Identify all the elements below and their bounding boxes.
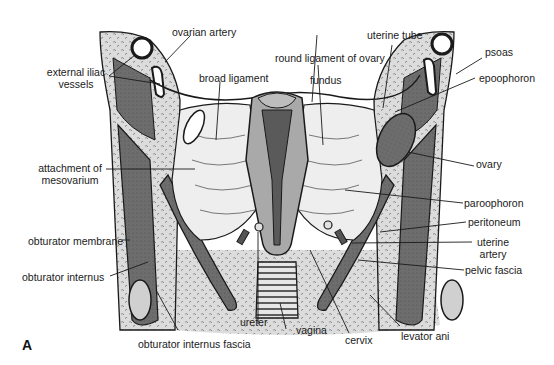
label-ovarian-artery: ovarian artery — [172, 26, 236, 38]
label-attachment-line2: mesovarium — [36, 174, 104, 186]
label-ureter: ureter — [240, 316, 267, 328]
label-paroophoron: paroophoron — [464, 197, 524, 209]
label-external-iliac-line2: vessels — [44, 78, 108, 90]
label-vagina: vagina — [296, 324, 327, 336]
label-obturator-membrane: obturator membrane — [28, 235, 123, 247]
label-levator-ani: levator ani — [401, 330, 449, 342]
label-fundus: fundus — [310, 74, 342, 86]
label-external-iliac-vessels: external iliac vessels — [44, 66, 108, 90]
uterus — [246, 92, 308, 255]
label-round-ligament-of-ovary: round ligament of ovary — [275, 52, 385, 64]
label-uterine-artery-line1: uterine — [470, 236, 516, 248]
ureter-left — [255, 223, 263, 231]
label-pelvic-fascia: pelvic fascia — [465, 264, 522, 276]
label-attachment-line1: attachment of — [36, 162, 104, 174]
label-attachment-of-mesovarium: attachment of mesovarium — [36, 162, 104, 186]
label-cervix: cervix — [345, 334, 372, 346]
label-psoas: psoas — [485, 46, 513, 58]
label-peritoneum: peritoneum — [468, 216, 521, 228]
label-uterine-artery: uterine artery — [470, 236, 516, 260]
label-broad-ligament: broad ligament — [199, 72, 268, 84]
label-uterine-artery-line2: artery — [470, 248, 516, 260]
label-ovary: ovary — [476, 158, 502, 170]
label-obturator-internus-fascia: obturator internus fascia — [138, 338, 251, 350]
ureter-right — [324, 221, 332, 229]
vagina — [256, 262, 298, 318]
label-epoophoron: epoophoron — [479, 72, 535, 84]
label-uterine-tube: uterine tube — [367, 29, 422, 41]
panel-letter: A — [22, 337, 32, 353]
label-external-iliac-line1: external iliac — [44, 66, 108, 78]
label-obturator-internus: obturator internus — [22, 271, 104, 283]
